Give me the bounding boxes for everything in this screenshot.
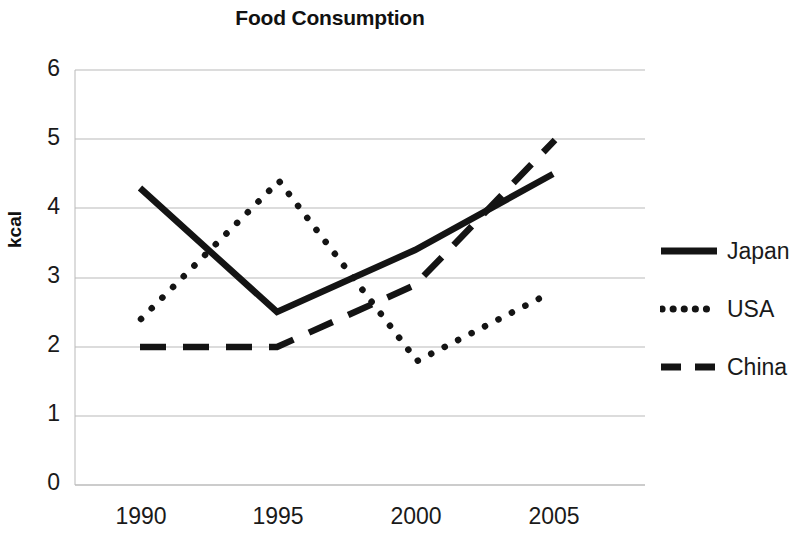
x-tick-label-2005: 2005 [509, 505, 599, 528]
x-tick-label-2000: 2000 [371, 505, 461, 528]
chart-legend: Japan USA China [660, 222, 806, 396]
series-line-japan [140, 174, 553, 312]
legend-item-usa: USA [660, 280, 806, 338]
legend-item-china: China [660, 338, 806, 396]
x-tick-label-1995: 1995 [233, 505, 323, 528]
line-chart: Food Consumption kcal 6 5 4 3 2 1 0 1990… [0, 0, 806, 538]
x-tick-label-1990: 1990 [96, 505, 186, 528]
legend-label-china: China [727, 356, 787, 379]
solid-line-swatch [660, 244, 718, 258]
series-lines [140, 140, 555, 361]
dotted-line-swatch [660, 302, 718, 316]
legend-label-japan: Japan [727, 240, 790, 263]
legend-item-japan: Japan [660, 222, 806, 280]
legend-label-usa: USA [727, 298, 774, 321]
dashed-line-swatch [660, 360, 718, 374]
